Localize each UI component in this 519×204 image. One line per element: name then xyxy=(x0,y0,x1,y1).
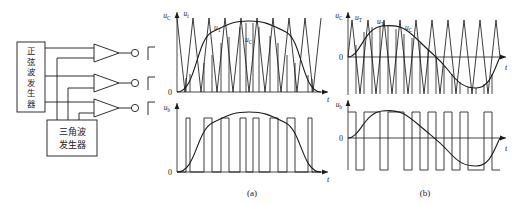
chart-a-top-origin: 0 xyxy=(168,88,172,97)
spwm-figure: 正弦波发生器 三角波 发生器 xyxy=(0,0,519,204)
chart-b-bottom-origin: 0 xyxy=(339,134,343,143)
triangle-generator-label-line1: 三角波 xyxy=(59,126,86,137)
chart-a-bottom-origin: 0 xyxy=(168,168,172,177)
chart-b-top-origin: 0 xyxy=(339,53,343,62)
caption-a: (a) xyxy=(247,188,257,198)
sine-generator-label: 正弦波发生器 xyxy=(27,46,36,109)
figure-canvas: 正弦波发生器 三角波 发生器 xyxy=(0,0,519,204)
triangle-generator-label-line2: 发生器 xyxy=(59,139,86,150)
caption-b: (b) xyxy=(420,188,431,198)
